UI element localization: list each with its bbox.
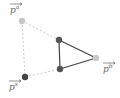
label-pb-sup: b	[109, 62, 113, 69]
svg-text:ps: ps	[9, 80, 18, 92]
solid-edge-lower-pb	[60, 58, 96, 69]
point-pb	[93, 55, 99, 61]
point-upper	[56, 37, 62, 43]
solid-edge-upper-pb	[59, 40, 96, 58]
solid-edge-upper-lower	[59, 40, 60, 69]
point-lower	[57, 66, 63, 72]
dashed-edge-pa-upper	[22, 21, 59, 40]
svg-text:pa: pa	[10, 3, 20, 15]
label-pa-sup: a	[16, 3, 20, 10]
dashed-edge-pa-ps	[22, 21, 25, 77]
label-ps: ps	[9, 80, 21, 93]
label-pa: pa	[10, 3, 22, 16]
svg-text:pb: pb	[103, 62, 113, 74]
point-pa	[19, 18, 25, 24]
label-ps-sup: s	[15, 80, 18, 87]
point-ps	[22, 74, 28, 80]
label-pb: pb	[103, 62, 115, 75]
vector-diagram: pa pb ps	[0, 0, 120, 98]
dashed-edge-ps-lower	[25, 69, 60, 77]
